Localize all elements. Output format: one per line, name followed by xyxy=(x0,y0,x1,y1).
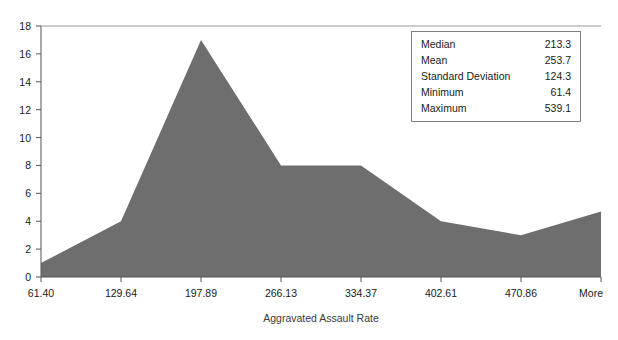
statistics-row-label: Mean xyxy=(421,52,537,68)
statistics-row-value: 61.4 xyxy=(537,84,571,100)
statistics-row: Minimum61.4 xyxy=(421,84,571,100)
y-axis-tick-label: 8 xyxy=(25,159,31,171)
statistics-row-label: Maximum xyxy=(421,100,537,116)
statistics-row-value: 213.3 xyxy=(537,36,571,52)
x-axis-ticks: 61.40129.64197.89266.13334.37402.61470.8… xyxy=(28,277,603,299)
y-axis-tick-label: 6 xyxy=(25,187,31,199)
x-axis-tick-label: 470.86 xyxy=(505,287,537,299)
y-axis-tick-label: 4 xyxy=(25,215,31,227)
statistics-row: Mean253.7 xyxy=(421,52,571,68)
statistics-row-label: Median xyxy=(421,36,537,52)
y-axis-tick-label: 12 xyxy=(19,104,31,116)
x-axis-tick-label: 334.37 xyxy=(345,287,377,299)
statistics-row-value: 124.3 xyxy=(537,68,571,84)
statistics-table: Median213.3Mean253.7Standard Deviation12… xyxy=(421,36,571,116)
x-axis-tick-label: 266.13 xyxy=(265,287,297,299)
x-axis-title: Aggravated Assault Rate xyxy=(263,312,379,324)
x-axis-tick-label: 197.89 xyxy=(185,287,217,299)
y-axis-tick-label: 16 xyxy=(19,48,31,60)
statistics-row-label: Standard Deviation xyxy=(421,68,537,84)
x-axis-tick-label: 402.61 xyxy=(425,287,457,299)
statistics-row: Standard Deviation124.3 xyxy=(421,68,571,84)
y-axis-ticks: 024681012141618 xyxy=(19,20,41,283)
chart-container: 024681012141618 61.40129.64197.89266.133… xyxy=(0,0,618,340)
statistics-row: Maximum539.1 xyxy=(421,100,571,116)
x-axis-tick-label: 129.64 xyxy=(105,287,137,299)
statistics-row-value: 539.1 xyxy=(537,100,571,116)
statistics-row-label: Minimum xyxy=(421,84,537,100)
y-axis-tick-label: 0 xyxy=(25,271,31,283)
statistics-summary-box: Median213.3Mean253.7Standard Deviation12… xyxy=(411,31,581,122)
statistics-row-value: 253.7 xyxy=(537,52,571,68)
statistics-row: Median213.3 xyxy=(421,36,571,52)
y-axis-tick-label: 18 xyxy=(19,20,31,32)
x-axis-tick-label: 61.40 xyxy=(28,287,54,299)
y-axis-tick-label: 2 xyxy=(25,243,31,255)
x-axis-tick-label: More xyxy=(579,287,603,299)
y-axis-tick-label: 10 xyxy=(19,132,31,144)
y-axis-tick-label: 14 xyxy=(19,76,31,88)
